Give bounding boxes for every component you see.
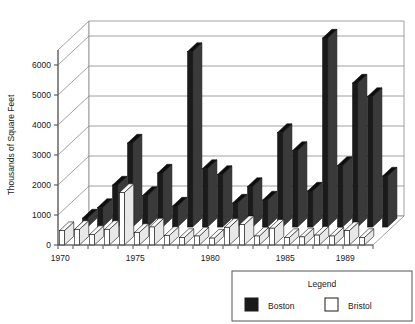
bar-boston-1990 (383, 167, 397, 227)
x-tick-label: 1989 (336, 253, 355, 263)
bar-boston-1988 (353, 74, 367, 227)
x-tick-label: 1975 (126, 253, 145, 263)
y-tick-label: 4000 (32, 120, 51, 130)
bar-boston-1989 (368, 88, 382, 227)
legend-title: Legend (308, 279, 337, 289)
bar-boston-1977 (188, 43, 202, 227)
bar-boston-1983 (278, 124, 292, 227)
legend: Legend Boston Bristol (232, 271, 412, 321)
y-tick-label: 2000 (32, 180, 51, 190)
chart-container: 0100020003000400050006000 19701975198019… (0, 0, 415, 324)
legend-label-boston: Boston (268, 301, 295, 311)
x-tick-label: 1980 (201, 253, 220, 263)
bar-boston-1985 (308, 182, 322, 227)
y-tick-label: 6000 (32, 60, 51, 70)
bar-boston-1986 (323, 29, 337, 227)
bar-boston-1984 (293, 142, 307, 227)
y-tick-label: 1000 (32, 210, 51, 220)
bar-boston-1987 (338, 157, 352, 227)
bar-chart-3d: 0100020003000400050006000 19701975198019… (0, 0, 415, 324)
y-tick-label: 0 (46, 240, 51, 250)
y-tick-label: 5000 (32, 90, 51, 100)
legend-swatch-bristol (325, 298, 338, 311)
bar-boston-1978 (203, 160, 217, 227)
y-tick-label: 3000 (32, 150, 51, 160)
x-tick-label: 1970 (51, 253, 70, 263)
legend-swatch-boston (245, 298, 258, 311)
legend-label-bristol: Bristol (348, 301, 372, 311)
bar-boston-1975 (158, 164, 172, 227)
y-axis-title: Thousands of Square Feet (6, 94, 16, 195)
x-tick-label: 1985 (276, 253, 295, 263)
bar-boston-1979 (218, 166, 232, 227)
bar-bristol-1974 (120, 184, 134, 245)
